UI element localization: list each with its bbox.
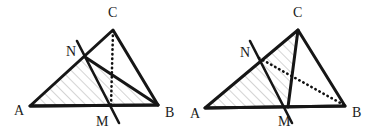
right-vertex-label-C: C [293,5,302,20]
left-segment-AB [30,105,158,106]
right-segment-AB [205,106,345,108]
left-vertex-label-A: A [14,103,25,118]
right-vertex-label-B: B [352,105,361,120]
geometry-diagram-svg: A B C M N A B C M N [0,0,372,131]
left-vertex-label-B: B [165,105,174,120]
left-vertex-label-N: N [66,44,76,59]
right-vertex-label-N: N [240,45,250,60]
right-triangle-figure: A B C M N [190,5,361,129]
left-vertex-label-M: M [96,114,109,129]
left-triangle-figure: A B C M N [14,5,174,129]
right-vertex-label-A: A [190,106,201,121]
geometry-figure-board: A B C M N A B C M N [0,0,372,131]
left-vertex-label-C: C [108,5,117,20]
right-vertex-label-M: M [278,114,291,129]
